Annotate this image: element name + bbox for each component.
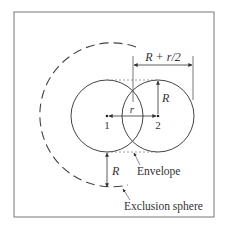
- separation-label: r: [130, 103, 135, 115]
- exclusion-label: Exclusion sphere: [124, 200, 203, 213]
- center-1-dot: [106, 115, 109, 118]
- envelope-label: Envelope: [137, 165, 180, 178]
- center-1-label: 1: [104, 119, 110, 131]
- radius-label-bottom: R: [111, 164, 120, 178]
- exclusion-leader: [123, 189, 130, 200]
- radius-label-right: R: [161, 91, 170, 105]
- center-2-dot: [157, 115, 160, 118]
- center-2-label: 2: [155, 119, 161, 131]
- dimension-label-top: R + r/2: [144, 50, 180, 64]
- envelope-leader: [134, 153, 140, 165]
- exclusion-sphere-diagram: R + r/2 R r 1 2 R Envelope Exclusion sph…: [0, 0, 226, 228]
